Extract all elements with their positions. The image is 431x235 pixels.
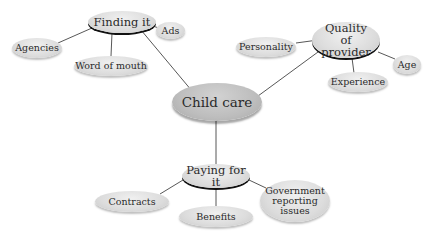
node-label: Finding it	[94, 16, 151, 28]
node-label: Quality of provider	[320, 22, 372, 58]
node-label: Age	[398, 60, 417, 70]
node-label: Ads	[162, 26, 180, 36]
connector-center-quality	[258, 52, 318, 96]
connector-center-finding	[141, 30, 192, 91]
connector-quality-experience	[352, 58, 354, 73]
node-contracts[interactable]: Contracts	[95, 191, 169, 212]
node-government-reporting-issues[interactable]: Government reporting issues	[260, 180, 330, 222]
node-label: Benefits	[196, 212, 235, 222]
node-paying-for-it[interactable]: Paying for it	[182, 164, 250, 188]
node-label: Personality	[239, 42, 293, 52]
node-finding-it[interactable]: Finding it	[88, 11, 156, 33]
node-word-of-mouth[interactable]: Word of mouth	[74, 56, 148, 76]
node-label: Contracts	[108, 197, 155, 207]
node-label: Agencies	[15, 43, 59, 53]
node-label: Word of mouth	[75, 61, 147, 71]
node-agencies[interactable]: Agencies	[12, 38, 62, 58]
connector-paying-contracts	[160, 180, 183, 194]
node-experience[interactable]: Experience	[328, 72, 388, 92]
connector-finding-wordofmouth	[111, 33, 112, 56]
mind-map-canvas: Child care Finding it Ads Agencies Word …	[0, 0, 431, 235]
node-label: Experience	[331, 77, 385, 87]
node-age[interactable]: Age	[393, 55, 421, 74]
node-benefits[interactable]: Benefits	[179, 206, 253, 227]
connector-finding-agencies	[58, 28, 92, 43]
connector-paying-government	[249, 180, 266, 188]
node-child-care[interactable]: Child care	[172, 83, 262, 121]
node-label: Paying for it	[182, 164, 250, 188]
node-personality[interactable]: Personality	[236, 37, 296, 57]
node-label: Government reporting issues	[265, 186, 325, 216]
node-label: Child care	[182, 95, 253, 109]
connector-quality-age	[378, 52, 395, 59]
node-ads[interactable]: Ads	[156, 22, 185, 39]
node-quality-of-provider[interactable]: Quality of provider	[312, 22, 380, 58]
